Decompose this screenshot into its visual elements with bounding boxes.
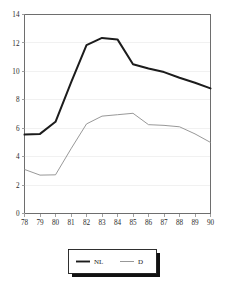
x-axis-ticks: 78798081828384858687888990 [21, 214, 215, 227]
chart-canvas: 02468101214 78798081828384858687888990 N… [0, 0, 226, 287]
x-tick-label: 84 [114, 219, 122, 227]
y-tick-label: 14 [12, 11, 20, 19]
x-tick-label: 83 [98, 219, 106, 227]
y-tick-label: 0 [16, 210, 20, 218]
y-tick-label: 8 [16, 96, 20, 104]
gridlines [25, 43, 211, 185]
x-tick-label: 79 [36, 219, 44, 227]
y-axis-ticks: 02468101214 [12, 11, 24, 218]
x-tick-label: 89 [191, 219, 199, 227]
plot-frame [25, 14, 212, 214]
legend-label-nl: NL [94, 258, 103, 266]
x-tick-label: 80 [52, 219, 60, 227]
data-series [25, 38, 211, 175]
x-tick-label: 88 [176, 219, 184, 227]
y-tick-label: 4 [16, 153, 20, 161]
x-tick-label: 90 [207, 219, 215, 227]
x-tick-label: 82 [83, 219, 91, 227]
x-tick-label: 87 [160, 219, 168, 227]
line-chart: 02468101214 78798081828384858687888990 N… [0, 0, 226, 287]
y-tick-label: 10 [12, 68, 20, 76]
x-tick-label: 78 [21, 219, 29, 227]
series-line-nl [25, 38, 211, 135]
y-tick-label: 2 [16, 182, 20, 190]
legend-label-d: D [138, 258, 143, 266]
x-tick-label: 86 [145, 219, 153, 227]
y-tick-label: 12 [12, 40, 20, 48]
series-line-d [25, 113, 211, 175]
x-tick-label: 85 [129, 219, 137, 227]
y-tick-label: 6 [16, 125, 20, 133]
legend: NL D [69, 250, 161, 278]
x-tick-label: 81 [67, 219, 75, 227]
